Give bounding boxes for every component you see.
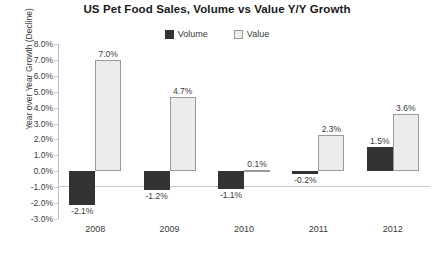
chart-container: US Pet Food Sales, Volume vs Value Y/Y G… <box>0 0 434 270</box>
bar-value-label: 4.7% <box>161 86 205 96</box>
chart-title: US Pet Food Sales, Volume vs Value Y/Y G… <box>0 3 434 15</box>
bar-value-label: 3.6% <box>384 103 428 113</box>
y-axis-tick-label: 4.0% <box>34 103 53 113</box>
y-axis-tick-label: 1.0% <box>34 150 53 160</box>
legend-label-value: Value <box>247 29 269 39</box>
legend-item-volume: Volume <box>165 29 208 39</box>
y-axis-line <box>58 44 59 219</box>
y-axis-tick-label: 0.0% <box>34 166 53 176</box>
bar-value-label: 7.0% <box>86 49 130 59</box>
x-axis-category-label: 2012 <box>356 224 430 234</box>
chart-legend: Volume Value <box>0 29 434 39</box>
bar-value-2008[interactable] <box>95 60 121 171</box>
bar-value-label: -2.1% <box>60 206 104 216</box>
bar-value-label: -1.2% <box>135 191 179 201</box>
y-axis-tick-label: 5.0% <box>34 87 53 97</box>
y-axis-tick-mark <box>54 155 58 156</box>
legend-item-value: Value <box>234 29 269 39</box>
y-axis-tick-mark <box>54 44 58 45</box>
y-axis-tick-label: 2.0% <box>34 134 53 144</box>
bar-volume-2008[interactable] <box>69 171 95 204</box>
legend-label-volume: Volume <box>178 29 208 39</box>
y-axis-tick-mark <box>54 108 58 109</box>
y-axis-tick-mark <box>54 76 58 77</box>
legend-swatch-value-icon <box>234 30 243 39</box>
bar-volume-2010[interactable] <box>218 171 244 189</box>
y-axis-tick-mark <box>54 203 58 204</box>
y-axis-tick-label: -1.0% <box>31 182 53 192</box>
y-axis-tick-mark <box>54 171 58 172</box>
y-axis-tick-label: 3.0% <box>34 119 53 129</box>
x-axis-category-label: 2009 <box>132 224 206 234</box>
y-axis-tick-mark <box>54 219 58 220</box>
bar-volume-2011[interactable] <box>292 171 318 174</box>
x-axis-category-label: 2011 <box>281 224 355 234</box>
bar-value-2009[interactable] <box>170 97 196 172</box>
plot-area: -2.1%7.0%-1.2%4.7%-1.1%0.1%-0.2%2.3%1.5%… <box>58 44 430 219</box>
bar-value-2012[interactable] <box>393 114 419 171</box>
bar-value-2010[interactable] <box>244 170 270 172</box>
x-axis-category-label: 2008 <box>58 224 132 234</box>
bar-volume-2009[interactable] <box>144 171 170 190</box>
legend-swatch-volume-icon <box>165 30 174 39</box>
bar-value-label: -1.1% <box>209 190 253 200</box>
y-axis-tick-mark <box>54 60 58 61</box>
y-axis-tick-label: -2.0% <box>31 198 53 208</box>
zero-baseline <box>58 186 430 187</box>
y-axis-tick-label: 7.0% <box>34 55 53 65</box>
bar-volume-2012[interactable] <box>367 147 393 171</box>
y-axis-tick-label: 8.0% <box>34 39 53 49</box>
y-axis-tick-mark <box>54 187 58 188</box>
y-axis-tick-label: 6.0% <box>34 71 53 81</box>
bar-value-2011[interactable] <box>318 135 344 172</box>
y-axis-tick-mark <box>54 139 58 140</box>
bar-value-label: 2.3% <box>309 124 353 134</box>
x-axis-category-label: 2010 <box>207 224 281 234</box>
bar-value-label: 0.1% <box>235 159 279 169</box>
y-axis-tick-mark <box>54 124 58 125</box>
y-axis-tick-mark <box>54 92 58 93</box>
y-axis-tick-labels: 8.0%7.0%6.0%5.0%4.0%3.0%2.0%1.0%0.0%-1.0… <box>0 44 53 219</box>
bar-value-label: -0.2% <box>283 175 327 185</box>
y-axis-tick-label: -3.0% <box>31 214 53 224</box>
